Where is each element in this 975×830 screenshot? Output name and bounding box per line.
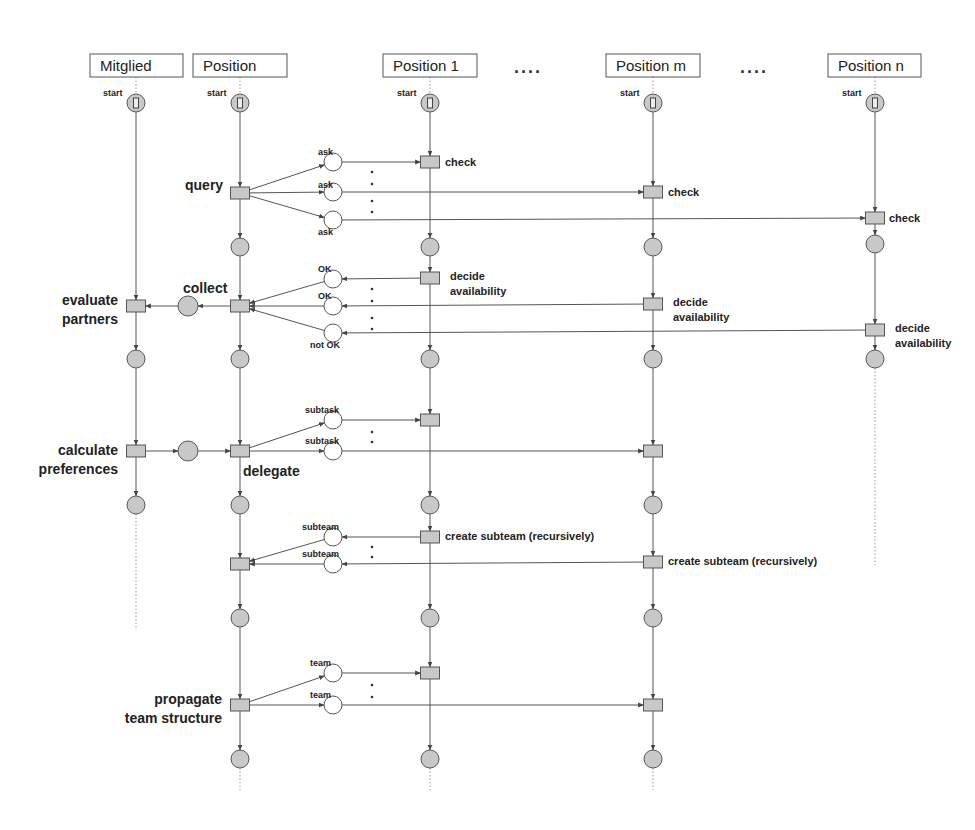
lane-positionm: Position m [606,54,700,77]
lane-mitglied: Mitglied [90,54,183,77]
place [644,609,662,627]
place [231,496,249,514]
lane-position: Position [193,54,287,77]
place [644,750,662,768]
start-label: start [207,88,227,98]
place [127,496,145,514]
transition-label: availability [450,285,507,297]
arc [342,278,421,279]
lane-headers: MitgliedPositionPosition 1Position mPosi… [90,54,921,77]
transition-sub1 [421,414,440,426]
transition-label: collect [183,280,228,296]
lane-ellipsis: .... [514,57,542,77]
transition-label: create subteam (recursively) [668,555,818,567]
start-label: start [620,88,640,98]
message-label: OK [318,291,332,301]
transition-label: delegate [243,463,300,479]
transition-label: check [889,212,921,224]
transition-subm [644,445,663,457]
petri-net-diagram: MitgliedPositionPosition 1Position mPosi… [0,0,975,830]
transition-label: query [185,177,223,193]
place [421,750,439,768]
transition-label: evaluate [62,292,118,308]
lane-title: Position m [616,57,686,74]
message-label: subteam [302,522,339,532]
transition-label: preferences [39,461,119,477]
lifelines [136,77,875,790]
arc [342,218,866,220]
transition-label: decide [673,296,708,308]
start-label: start [842,88,862,98]
arc [250,165,325,190]
ellipsis-dot [371,441,374,444]
arc [250,309,325,331]
transition-label: availability [673,311,730,323]
internal-place [178,441,198,461]
message-label: ask [318,147,334,157]
start-token-icon [134,98,139,108]
internal-place [178,296,198,316]
ellipsis-dot [371,171,374,174]
arcs [146,162,866,705]
place [644,496,662,514]
transition-label: check [445,156,477,168]
place [421,496,439,514]
transition-label: availability [895,337,952,349]
lane-positionn: Position n [828,54,921,77]
start-token-icon [651,98,656,108]
ellipsis-dot [371,211,374,214]
transition-label: team structure [125,710,222,726]
start-label: start [397,88,417,98]
message-label: not OK [310,340,340,350]
message-label: subtask [305,436,340,446]
transition-subteam_in [231,558,250,570]
transition-label: propagate [154,691,222,707]
place [866,235,884,253]
transition-teamm [644,699,663,711]
start-token-icon [873,98,878,108]
arc [250,196,325,218]
lane-position1: Position 1 [383,54,477,77]
place [231,238,249,256]
start-label: start [103,88,123,98]
ellipsis-dot [371,288,374,291]
message-label: ask [318,180,334,190]
ellipsis-dot [371,183,374,186]
lane-ellipsis: .... [740,57,768,77]
place [421,238,439,256]
arc [250,192,325,193]
transition-evaluate [127,300,146,312]
transition-label: decide [895,322,930,334]
transition-checkm [644,186,663,198]
transition-decide1 [421,272,440,284]
transition-label: check [668,186,700,198]
transition-checkn [866,212,885,224]
ellipsis-dot [371,431,374,434]
transition-label: create subteam (recursively) [445,530,595,542]
arc [250,282,325,304]
message-label: subtask [305,405,340,415]
lane-title: Position [203,57,256,74]
transition-query [231,187,250,199]
transition-collect [231,300,250,312]
transition-deciden [866,324,885,336]
message-label: subteam [302,549,339,559]
lane-title: Mitglied [100,57,152,74]
place [231,350,249,368]
message-label: team [310,658,331,668]
start-token-icon [238,98,243,108]
message-label: team [310,690,331,700]
transition-team1 [421,667,440,679]
ellipsis-dot [371,696,374,699]
transition-decidem [644,298,663,310]
place [421,350,439,368]
transition-check1 [421,156,440,168]
transition-label: calculate [58,442,118,458]
labels: startstartstartstartstartaskaskaskOKOKno… [39,57,953,726]
arc [342,562,644,564]
ellipsis-dot [371,200,374,203]
transition-label: decide [450,270,485,282]
place [866,350,884,368]
place [127,350,145,368]
place [644,350,662,368]
